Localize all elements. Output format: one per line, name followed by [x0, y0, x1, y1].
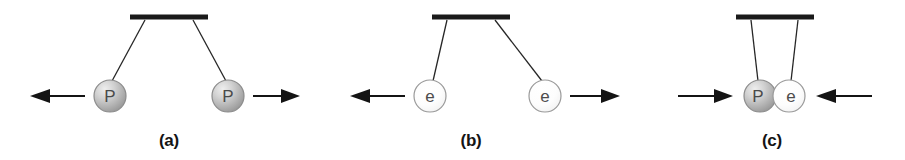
panel-a-caption: (a): [159, 131, 179, 150]
ball-c-left-label: P: [752, 87, 763, 106]
ceiling-bar-c: [736, 15, 814, 20]
ball-b-right-label: e: [540, 87, 549, 106]
ball-b-left-label: e: [425, 87, 434, 106]
ball-a-left: P: [94, 80, 126, 112]
panel-c-caption: (c): [762, 131, 782, 150]
physics-figure: P P (a) e: [0, 0, 905, 160]
ceiling-bar-a: [130, 15, 208, 20]
ball-a-right: P: [212, 80, 244, 112]
ball-c-right: e: [773, 80, 805, 112]
ball-a-right-label: P: [222, 87, 233, 106]
ball-c-left: P: [744, 80, 776, 112]
ball-b-right: e: [529, 80, 561, 112]
ball-c-right-label: e: [786, 87, 795, 106]
figure-canvas: P P (a) e: [0, 0, 905, 160]
ball-a-left-label: P: [104, 87, 115, 106]
panel-b-caption: (b): [460, 131, 481, 150]
ball-b-left: e: [414, 80, 446, 112]
ceiling-bar-b: [432, 15, 510, 20]
